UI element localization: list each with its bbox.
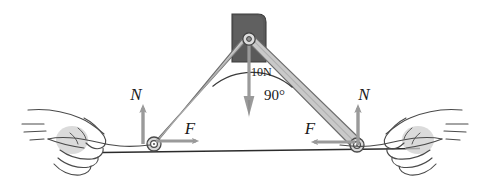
hinge-pin-icon xyxy=(243,33,255,45)
hand-pointing-right-icon xyxy=(22,109,150,175)
normal-force-label-left: N xyxy=(129,85,143,104)
friction-force-label-left: F xyxy=(184,119,196,138)
physics-diagram-figure: N N F F 10N 90° xyxy=(0,0,490,185)
friction-force-label-right: F xyxy=(304,119,316,138)
diagram-canvas: N N F F 10N 90° xyxy=(0,0,490,185)
left-rod xyxy=(150,36,246,147)
pivot-joint-left-icon xyxy=(147,137,161,151)
normal-force-label-right: N xyxy=(357,85,371,104)
angle-label: 90° xyxy=(264,87,285,103)
weight-label: 10N xyxy=(251,65,272,79)
